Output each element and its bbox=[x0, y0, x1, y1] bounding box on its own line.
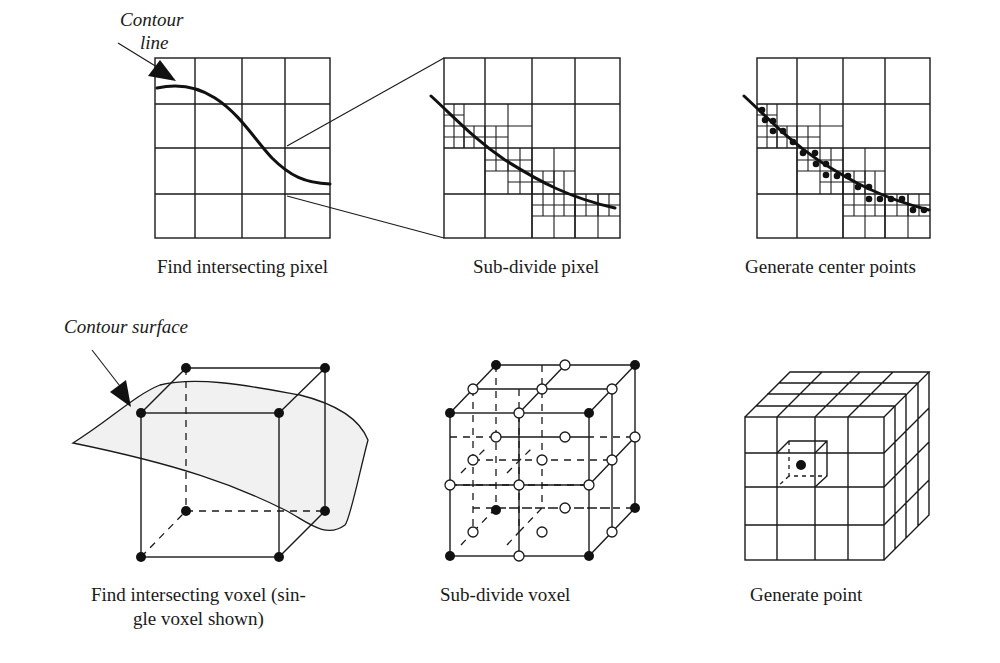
caption-find-voxel: Find intersecting voxel (sin- gle voxel … bbox=[91, 583, 306, 631]
arrow-head-icon bbox=[148, 60, 176, 81]
caption-subdivide-voxel: Sub-divide voxel bbox=[440, 583, 570, 607]
caption-subdivide-pixel: Sub-divide pixel bbox=[473, 255, 599, 279]
subdivided-grid-panel bbox=[431, 58, 620, 238]
contour-line-curve bbox=[744, 96, 929, 210]
caption-center-points: Generate center points bbox=[745, 255, 916, 279]
arrow-head-icon bbox=[110, 380, 131, 407]
zoom-connector-top bbox=[287, 58, 444, 146]
contour-line-label: Contour line bbox=[120, 8, 183, 54]
pixel-grid-panel bbox=[118, 43, 330, 238]
contour-line-curve bbox=[431, 96, 615, 208]
contour-line-label-1: Contour bbox=[120, 8, 183, 31]
caption-generate-point: Generate point bbox=[750, 583, 862, 607]
zoom-connector-bottom bbox=[287, 196, 444, 238]
caption-find-voxel-line2: gle voxel shown) bbox=[91, 607, 306, 631]
subdivided-voxel-panel bbox=[445, 360, 640, 561]
voxel-block-panel bbox=[745, 372, 929, 560]
open-vertex-markers bbox=[445, 360, 640, 561]
center-points-panel bbox=[744, 58, 930, 238]
caption-find-voxel-line1: Find intersecting voxel (sin- bbox=[91, 583, 306, 607]
contour-surface-label: Contour surface bbox=[64, 315, 188, 338]
generated-point-marker bbox=[796, 460, 806, 470]
caption-find-pixel: Find intersecting pixel bbox=[157, 255, 328, 279]
contour-line-curve bbox=[157, 86, 330, 184]
voxel-panel bbox=[73, 350, 368, 562]
contour-line-label-2: line bbox=[120, 31, 183, 54]
